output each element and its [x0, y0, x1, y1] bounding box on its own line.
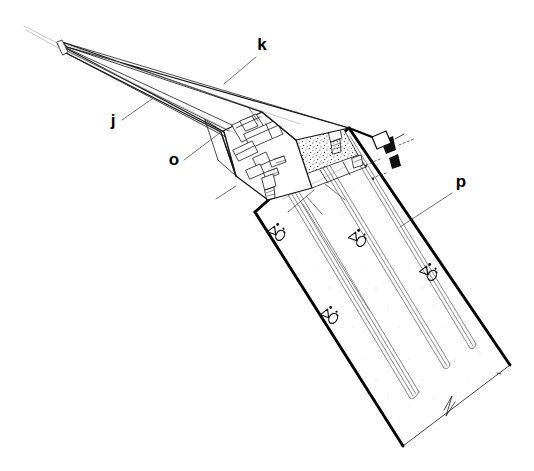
callout-label-p: p — [456, 172, 466, 191]
callout-label-j: j — [110, 111, 116, 130]
callout-label-k: k — [257, 35, 267, 54]
technical-drawing-canvas: k j o p — [0, 0, 534, 471]
callout-label-o: o — [169, 150, 179, 169]
figure-root: k j o p — [0, 0, 534, 471]
